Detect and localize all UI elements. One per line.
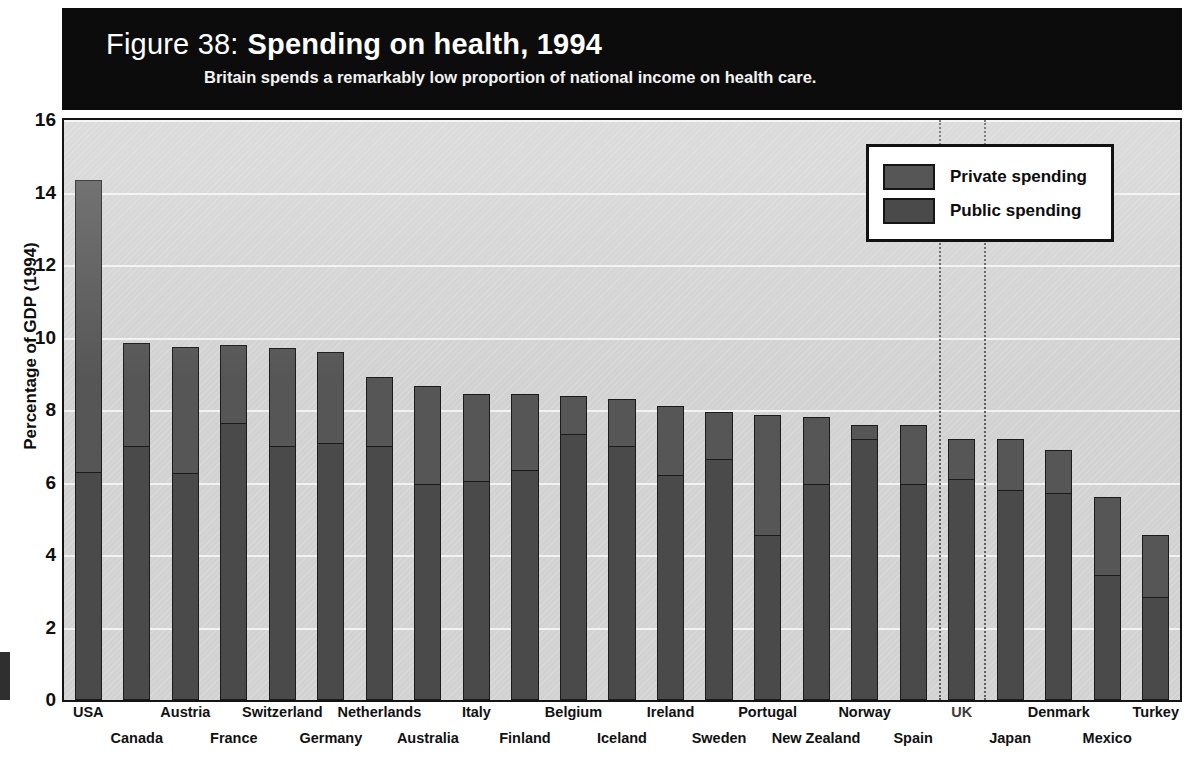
bar-segment-public bbox=[220, 423, 247, 700]
y-tick-label: 4 bbox=[4, 544, 56, 566]
bar-italy bbox=[463, 394, 490, 700]
bar-segment-private bbox=[172, 347, 199, 475]
bar-segment-private bbox=[754, 415, 781, 536]
bar-segment-private bbox=[1045, 450, 1072, 495]
bar-netherlands bbox=[366, 377, 393, 700]
x-axis-labels: USACanadaAustriaFranceSwitzerlandGermany… bbox=[62, 702, 1182, 772]
x-tick-label-mexico: Mexico bbox=[1083, 730, 1132, 746]
bar-austria bbox=[172, 347, 199, 700]
bar-segment-private bbox=[608, 399, 635, 448]
bar-segment-private bbox=[75, 180, 102, 473]
bar-segment-public bbox=[657, 475, 684, 700]
bar-usa bbox=[75, 180, 102, 700]
bar-norway bbox=[851, 425, 878, 701]
x-tick-label-spain: Spain bbox=[893, 730, 932, 746]
x-tick-label-italy: Italy bbox=[462, 704, 491, 720]
bar-segment-private bbox=[1094, 497, 1121, 576]
bar-segment-public bbox=[1045, 493, 1072, 700]
x-tick-label-portugal: Portugal bbox=[738, 704, 797, 720]
x-tick-label-iceland: Iceland bbox=[597, 730, 647, 746]
legend-swatch-public bbox=[883, 198, 935, 224]
bar-segment-public bbox=[75, 472, 102, 700]
y-tick-label: 16 bbox=[4, 109, 56, 131]
x-tick-label-austria: Austria bbox=[160, 704, 210, 720]
bar-segment-public bbox=[997, 490, 1024, 700]
bar-finland bbox=[511, 394, 538, 700]
y-tick-label: 14 bbox=[4, 182, 56, 204]
bar-segment-public bbox=[851, 439, 878, 700]
bar-mexico bbox=[1094, 497, 1121, 700]
bar-segment-private bbox=[414, 386, 441, 485]
bar-sweden bbox=[705, 412, 732, 700]
bar-ireland bbox=[657, 406, 684, 700]
x-tick-label-belgium: Belgium bbox=[545, 704, 602, 720]
y-axis-title: Percentage of GDP (1994) bbox=[21, 211, 41, 481]
bar-belgium bbox=[560, 396, 587, 701]
bar-turkey bbox=[1142, 535, 1169, 700]
x-tick-label-japan: Japan bbox=[989, 730, 1031, 746]
x-tick-label-netherlands: Netherlands bbox=[337, 704, 421, 720]
bar-spain bbox=[900, 425, 927, 701]
figure-number: Figure 38: bbox=[106, 28, 239, 60]
bar-segment-private bbox=[220, 345, 247, 424]
bar-segment-public bbox=[803, 484, 830, 700]
bar-segment-public bbox=[366, 446, 393, 700]
bar-portugal bbox=[754, 415, 781, 700]
bar-segment-private bbox=[657, 406, 684, 476]
x-tick-label-germany: Germany bbox=[299, 730, 362, 746]
bar-switzerland bbox=[269, 348, 296, 700]
x-tick-label-ireland: Ireland bbox=[647, 704, 695, 720]
x-tick-label-france: France bbox=[210, 730, 258, 746]
y-tick-label: 2 bbox=[4, 617, 56, 639]
bar-segment-public bbox=[900, 484, 927, 700]
x-tick-label-finland: Finland bbox=[499, 730, 551, 746]
x-tick-label-turkey: Turkey bbox=[1132, 704, 1178, 720]
bar-japan bbox=[997, 439, 1024, 700]
bar-uk bbox=[948, 439, 975, 700]
bar-segment-private bbox=[705, 412, 732, 461]
bar-segment-public bbox=[463, 481, 490, 700]
legend-item-public: Public spending bbox=[883, 194, 1111, 228]
figure-container: Figure 38:Spending on health, 1994 Brita… bbox=[0, 0, 1190, 776]
bar-segment-private bbox=[900, 425, 927, 486]
bar-segment-public bbox=[1142, 597, 1169, 700]
legend-label-public: Public spending bbox=[950, 201, 1081, 221]
bar-germany bbox=[317, 352, 344, 700]
bar-segment-private bbox=[317, 352, 344, 444]
bar-segment-public bbox=[511, 470, 538, 700]
bar-segment-private bbox=[803, 417, 830, 486]
figure-header: Figure 38:Spending on health, 1994 Brita… bbox=[62, 8, 1182, 110]
bar-australia bbox=[414, 386, 441, 700]
bar-segment-public bbox=[414, 484, 441, 700]
bar-segment-private bbox=[463, 394, 490, 483]
bar-segment-public bbox=[705, 459, 732, 700]
bar-new-zealand bbox=[803, 417, 830, 700]
bar-segment-public bbox=[317, 443, 344, 700]
bar-segment-private bbox=[1142, 535, 1169, 598]
x-tick-label-norway: Norway bbox=[838, 704, 890, 720]
bar-segment-private bbox=[560, 396, 587, 436]
bar-segment-public bbox=[269, 446, 296, 700]
bar-segment-public bbox=[560, 434, 587, 700]
x-tick-label-uk: UK bbox=[951, 704, 972, 720]
legend-item-private: Private spending bbox=[883, 160, 1111, 194]
legend-swatch-private bbox=[883, 164, 935, 190]
x-tick-label-usa: USA bbox=[73, 704, 104, 720]
bar-iceland bbox=[608, 399, 635, 700]
bar-segment-public bbox=[1094, 575, 1121, 700]
bar-segment-private bbox=[997, 439, 1024, 491]
bar-segment-public bbox=[172, 473, 199, 700]
bar-denmark bbox=[1045, 450, 1072, 700]
x-tick-label-sweden: Sweden bbox=[692, 730, 747, 746]
chart-legend: Private spending Public spending bbox=[866, 144, 1114, 242]
y-tick-label: 0 bbox=[4, 689, 56, 711]
bar-segment-private bbox=[511, 394, 538, 472]
bar-canada bbox=[123, 343, 150, 700]
bar-segment-public bbox=[948, 479, 975, 700]
bar-segment-private bbox=[948, 439, 975, 480]
figure-subtitle: Britain spends a remarkably low proporti… bbox=[204, 68, 816, 87]
bar-france bbox=[220, 345, 247, 700]
bar-segment-public bbox=[754, 535, 781, 700]
x-tick-label-canada: Canada bbox=[111, 730, 163, 746]
x-tick-label-new-zealand: New Zealand bbox=[772, 730, 861, 746]
